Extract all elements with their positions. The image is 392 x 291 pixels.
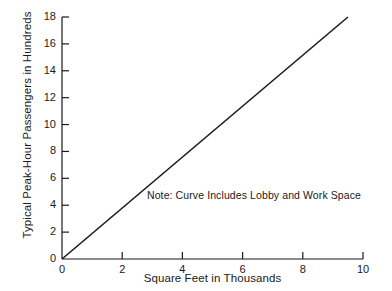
y-axis-tick-label: 16: [30, 37, 56, 49]
y-axis-tick-label: 6: [30, 171, 56, 183]
y-axis-tick-label: 10: [30, 118, 56, 130]
x-axis-ticks: [122, 252, 363, 259]
x-axis-tick-label: 6: [231, 263, 255, 275]
x-axis-tick-label: 0: [50, 263, 74, 275]
x-axis-tick-label: 2: [110, 263, 134, 275]
chart-figure: Typical Peak-Hour Passengers in Hundreds…: [0, 0, 392, 291]
y-axis-tick-label: 12: [30, 91, 56, 103]
y-axis-tick-label: 14: [30, 64, 56, 76]
chart-plot-area: [0, 0, 392, 291]
y-axis-ticks: [62, 17, 69, 232]
x-axis-tick-label: 8: [291, 263, 315, 275]
y-axis-tick-label: 2: [30, 225, 56, 237]
data-series-group: [62, 17, 348, 259]
axis-lines: [62, 17, 363, 259]
y-axis-tick-label: 8: [30, 144, 56, 156]
data-series-line: [62, 17, 348, 259]
x-axis-tick-label: 10: [351, 263, 375, 275]
y-axis-tick-label: 4: [30, 198, 56, 210]
x-axis-tick-label: 4: [170, 263, 194, 275]
y-axis-tick-label: 18: [30, 10, 56, 22]
